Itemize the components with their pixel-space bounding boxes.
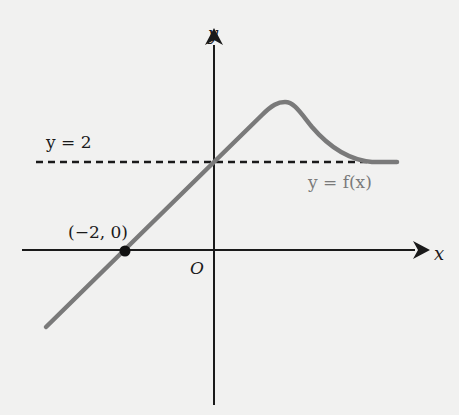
y-axis-label: y: [207, 23, 219, 44]
function-graph: y x O y = 2 y = f(x) (−2, 0): [0, 0, 459, 415]
curve-label: y = f(x): [307, 172, 372, 192]
x-axis-label: x: [434, 243, 444, 264]
x-axis-arrow-icon: [413, 241, 430, 259]
marked-point-label: (−2, 0): [68, 222, 128, 242]
asymptote-label: y = 2: [45, 132, 91, 152]
origin-label: O: [190, 258, 204, 278]
marked-point: [120, 246, 131, 257]
curve-f: [46, 102, 397, 327]
